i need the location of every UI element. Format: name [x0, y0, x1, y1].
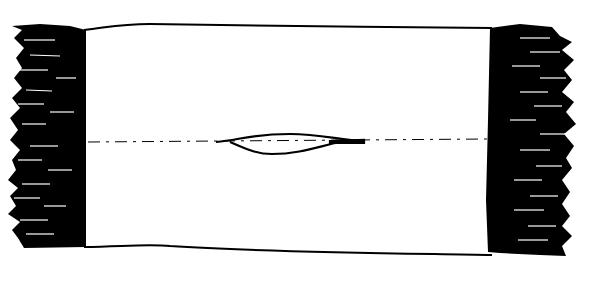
- right-fringe: [486, 24, 576, 256]
- center-axis: [88, 139, 488, 142]
- center-slit: [216, 134, 364, 154]
- left-fringe: [8, 24, 86, 248]
- diagram-figure: [0, 0, 600, 284]
